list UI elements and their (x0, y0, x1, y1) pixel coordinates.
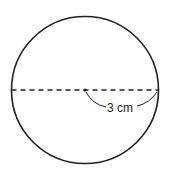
radius-brace-left (86, 92, 106, 107)
center-point (83, 88, 86, 91)
circle-diagram: 3 cm (0, 0, 180, 179)
radius-brace-right (137, 92, 157, 106)
radius-label: 3 cm (107, 101, 133, 115)
